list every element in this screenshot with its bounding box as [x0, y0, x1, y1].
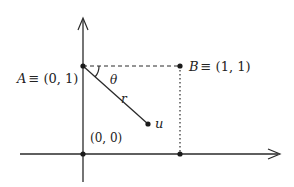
x-axis	[20, 149, 280, 159]
label-a: A≡ (0, 1)	[16, 71, 78, 86]
point-u	[145, 121, 150, 126]
diagram-canvas: A≡ (0, 1) B≡ (1, 1) (0, 0) u θ r	[0, 0, 294, 187]
point-origin	[80, 151, 85, 156]
label-b: B≡ (1, 1)	[188, 59, 251, 74]
label-origin: (0, 0)	[90, 131, 122, 145]
point-a	[80, 63, 85, 68]
label-r: r	[121, 92, 128, 106]
angle-theta-arc	[95, 66, 99, 77]
y-axis	[78, 18, 88, 182]
point-b-projection	[177, 151, 182, 156]
point-b	[177, 63, 182, 68]
label-u: u	[155, 116, 163, 131]
label-theta: θ	[110, 73, 118, 87]
